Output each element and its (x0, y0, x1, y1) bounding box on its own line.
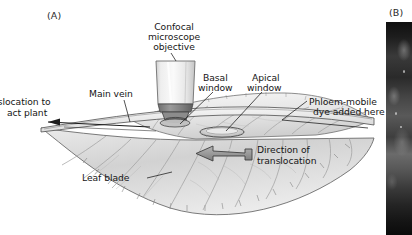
micrograph-speck (395, 112, 397, 115)
panel-b-micrograph (386, 22, 412, 235)
label-translocation-out-line2: act plant (7, 108, 47, 119)
label-dye-line2: dye added here (313, 107, 385, 118)
micrograph-image (386, 22, 412, 235)
label-leaf-blade: Leaf blade (82, 173, 129, 184)
label-translocation-out-line1: nslocation to (0, 97, 51, 108)
label-direction-line1: Direction of (257, 145, 310, 156)
figure-container: (A) (B) Confocal microscope objective Ma… (0, 0, 412, 235)
basal-window (160, 119, 190, 127)
label-basal-window-line2: window (198, 83, 233, 94)
label-apical-window-line2: window (247, 83, 282, 94)
micrograph-speck (403, 70, 405, 73)
label-main-vein: Main vein (89, 89, 133, 100)
label-direction-line2: translocation (257, 156, 316, 167)
panel-b-label: (B) (389, 7, 403, 18)
panel-a-label: (A) (47, 10, 61, 21)
label-objective-line3: objective (143, 42, 205, 53)
apical-window (200, 127, 244, 137)
micrograph-speck (400, 126, 402, 128)
